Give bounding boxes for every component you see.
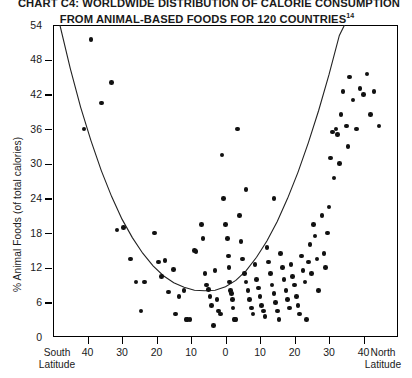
y-tick-24 bbox=[45, 198, 52, 199]
scatter-point bbox=[109, 80, 114, 85]
chart-root: CHART C4: WORLDWIDE DISTRIBUTION OF CALO… bbox=[0, 0, 412, 378]
scatter-point bbox=[223, 222, 228, 227]
scatter-point bbox=[325, 231, 330, 236]
scatter-point bbox=[258, 294, 263, 299]
scatter-point bbox=[156, 260, 161, 265]
scatter-point bbox=[278, 251, 283, 256]
scatter-point bbox=[215, 297, 220, 302]
scatter-point bbox=[173, 312, 178, 317]
scatter-point bbox=[346, 144, 351, 149]
x-tick-label-20: 20 bbox=[280, 347, 310, 358]
scatter-point bbox=[142, 280, 147, 285]
chart-title-footnote: 14 bbox=[346, 12, 354, 19]
y-tick-label-54: 54 bbox=[0, 20, 42, 31]
scatter-point bbox=[311, 222, 316, 227]
scatter-point bbox=[237, 213, 242, 218]
y-tick-label-18: 18 bbox=[0, 228, 42, 239]
scatter-point bbox=[287, 306, 292, 311]
y-tick-label-48: 48 bbox=[0, 54, 42, 65]
scatter-point bbox=[368, 112, 373, 117]
x-tick--20 bbox=[157, 337, 158, 344]
scatter-point bbox=[249, 306, 254, 311]
scatter-point bbox=[308, 242, 313, 247]
scatter-point bbox=[209, 303, 214, 308]
scatter-point bbox=[227, 265, 232, 270]
scatter-point bbox=[199, 222, 204, 227]
y-tick-label-30: 30 bbox=[0, 158, 42, 169]
scatter-point bbox=[335, 132, 340, 137]
scatter-point bbox=[188, 317, 193, 322]
scatter-point bbox=[203, 271, 208, 276]
scatter-point bbox=[344, 124, 349, 129]
scatter-point bbox=[322, 251, 327, 256]
scatter-point bbox=[242, 271, 247, 276]
x-axis-south-line-1: South bbox=[30, 347, 84, 359]
scatter-point bbox=[229, 291, 234, 296]
x-tick-20 bbox=[295, 337, 296, 344]
scatter-point bbox=[159, 274, 164, 279]
scatter-point bbox=[272, 291, 277, 296]
scatter-point bbox=[171, 267, 176, 272]
x-axis-south-label: South Latitude bbox=[30, 347, 84, 370]
y-tick-label-6: 6 bbox=[0, 297, 42, 308]
scatter-point bbox=[297, 312, 302, 317]
scatter-point bbox=[306, 260, 311, 265]
scatter-point bbox=[208, 294, 213, 299]
scatter-point bbox=[272, 196, 277, 201]
chart-title-block: CHART C4: WORLDWIDE DISTRIBUTION OF CALO… bbox=[0, 0, 412, 25]
scatter-point bbox=[235, 127, 240, 132]
scatter-point bbox=[341, 89, 346, 94]
scatter-point bbox=[265, 245, 270, 250]
x-tick-10 bbox=[260, 337, 261, 344]
y-tick-18 bbox=[45, 233, 52, 234]
x-tick-label-10: 10 bbox=[245, 347, 275, 358]
scatter-point bbox=[328, 156, 333, 161]
x-tick-30 bbox=[329, 337, 330, 344]
y-tick-label-12: 12 bbox=[0, 262, 42, 273]
scatter-point bbox=[285, 297, 290, 302]
scatter-point bbox=[296, 303, 301, 308]
scatter-point bbox=[177, 294, 182, 299]
y-tick-label-36: 36 bbox=[0, 124, 42, 135]
x-tick--10 bbox=[191, 337, 192, 344]
x-tick-40 bbox=[364, 337, 365, 344]
chart-title-line-2-text: FROM ANIMAL-BASED FOODS FOR 120 COUNTRIE… bbox=[60, 12, 347, 24]
scatter-point bbox=[121, 225, 126, 230]
scatter-point bbox=[358, 86, 363, 91]
scatter-point bbox=[273, 300, 278, 305]
scatter-point bbox=[259, 303, 264, 308]
scatter-point bbox=[166, 290, 171, 295]
scatter-point bbox=[266, 260, 271, 265]
y-axis-labels: 061218243036424854 bbox=[0, 0, 42, 378]
y-tick-30 bbox=[45, 164, 52, 165]
scatter-point bbox=[292, 283, 297, 288]
scatter-point bbox=[290, 274, 295, 279]
y-tick-label-42: 42 bbox=[0, 89, 42, 100]
scatter-point bbox=[230, 297, 235, 302]
scatter-point bbox=[337, 161, 342, 166]
x-axis-north-line-1: North bbox=[356, 347, 410, 359]
scatter-point bbox=[253, 262, 258, 267]
trend-curve bbox=[60, 25, 345, 291]
x-tick-label-0: 0 bbox=[211, 347, 241, 358]
scatter-point bbox=[247, 297, 252, 302]
y-tick-label-0: 0 bbox=[0, 332, 42, 343]
x-tick-0 bbox=[226, 337, 227, 344]
scatter-point bbox=[221, 196, 226, 201]
scatter-point bbox=[282, 277, 287, 282]
scatter-point bbox=[211, 323, 216, 328]
x-tick-label--30: 30 bbox=[107, 347, 137, 358]
scatter-point bbox=[256, 286, 261, 291]
x-tick-label-30: 30 bbox=[314, 347, 344, 358]
chart-title-line-2: FROM ANIMAL-BASED FOODS FOR 120 COUNTRIE… bbox=[2, 10, 412, 25]
scatter-point bbox=[206, 287, 211, 292]
scatter-point bbox=[254, 277, 259, 282]
scatter-point bbox=[99, 101, 104, 106]
scatter-point bbox=[234, 317, 239, 322]
x-tick--30 bbox=[122, 337, 123, 344]
y-tick-48 bbox=[45, 60, 52, 61]
plot-canvas bbox=[53, 25, 398, 337]
scatter-point bbox=[280, 265, 285, 270]
scatter-point bbox=[316, 288, 321, 293]
y-tick-36 bbox=[45, 129, 52, 130]
